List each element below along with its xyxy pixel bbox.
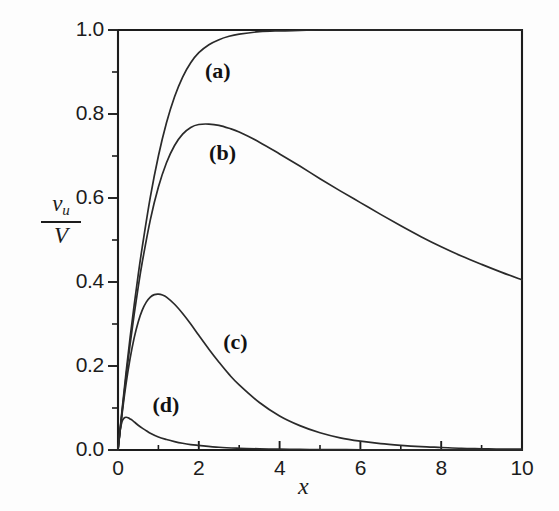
- curve-label-a: (a): [205, 58, 231, 84]
- y-tick-label: 0.0: [44, 437, 104, 461]
- y-tick-label: 0.8: [44, 101, 104, 125]
- curve-label-c: (c): [223, 329, 247, 355]
- y-tick-label: 0.6: [44, 185, 104, 209]
- y-tick-label: 1.0: [44, 17, 104, 41]
- curve-label-b: (b): [209, 140, 236, 166]
- y-tick-label: 0.4: [44, 269, 104, 293]
- x-tick-label: 4: [258, 456, 302, 480]
- plot-frame: [118, 30, 522, 450]
- x-tick-label: 2: [177, 456, 221, 480]
- axis-frame: [118, 30, 522, 450]
- y-tick-label: 0.2: [44, 353, 104, 377]
- y-axis-ticks: [108, 30, 118, 450]
- curve-c: [118, 294, 522, 450]
- x-tick-label: 6: [338, 456, 382, 480]
- x-tick-label: 8: [419, 456, 463, 480]
- curve-a: [118, 30, 522, 450]
- figure-container: vu V x 0246810 0.00.20.40.60.81.0 (a)(b)…: [0, 0, 559, 511]
- data-curves: [118, 30, 522, 450]
- plot-area: [0, 0, 559, 511]
- curve-label-d: (d): [153, 392, 180, 418]
- x-tick-label: 10: [500, 456, 544, 480]
